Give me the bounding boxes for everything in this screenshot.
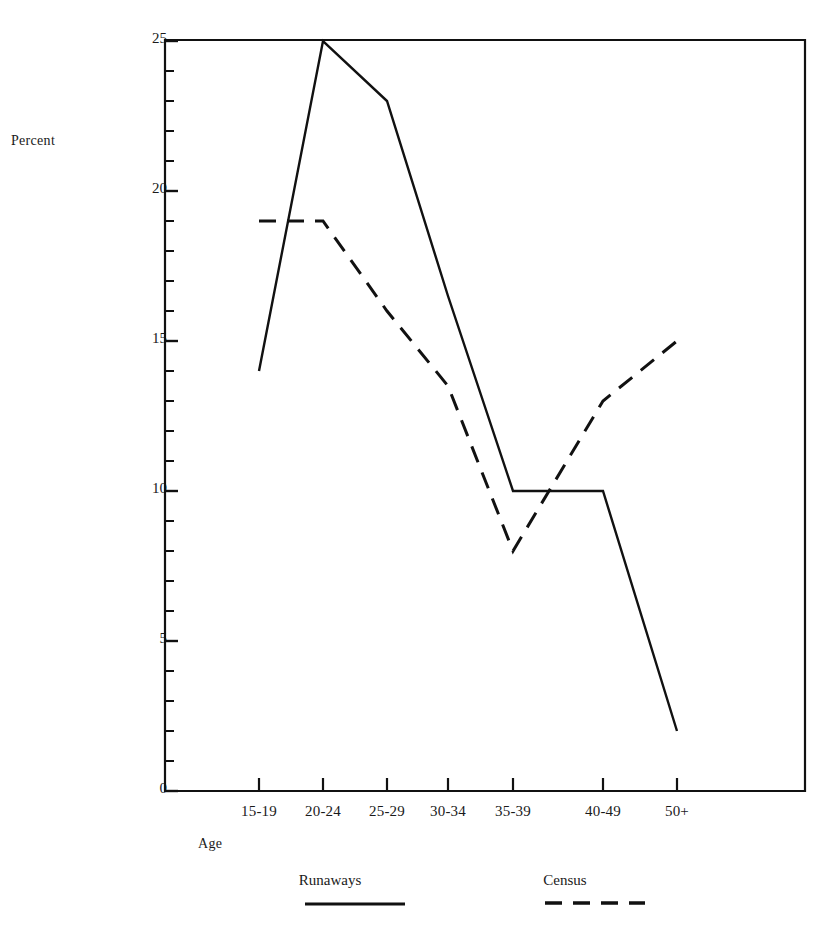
- plot-frame: [165, 40, 805, 791]
- plot-canvas: [0, 0, 822, 936]
- chart-figure: Percent Age 25 20 15 10 5 0 15-19 20-24 …: [0, 0, 822, 936]
- x-axis-ticks: [259, 778, 677, 791]
- series-line-runaways: [259, 41, 677, 731]
- series-line-census: [259, 221, 677, 551]
- y-axis-ticks: [165, 41, 178, 791]
